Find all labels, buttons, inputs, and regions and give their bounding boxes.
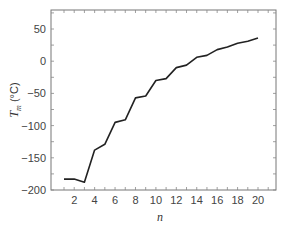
x-tick-label: 4 [92,194,98,206]
y-tick-label: −50 [27,87,46,99]
x-axis-ticks: 2468101214161820 [64,10,268,206]
y-tick-label: −200 [21,184,46,196]
x-tick-label: 16 [211,194,223,206]
x-tick-label: 6 [112,194,118,206]
x-tick-label: 8 [132,194,138,206]
y-axis-ticks: −200−150−100−50050 [21,13,276,196]
y-axis-label: Tm(°C) [7,82,23,117]
x-tick-label: 10 [150,194,162,206]
x-tick-label: 14 [191,194,203,206]
y-tick-label: −100 [21,120,46,132]
y-tick-label: 0 [40,55,46,67]
svg-text:Tm(°C): Tm(°C) [7,82,23,117]
y-tick-label: −150 [21,152,46,164]
x-tick-label: 20 [252,194,264,206]
plot-frame [51,10,276,190]
y-axis-label-unit: (°C) [8,82,20,102]
x-tick-label: 12 [170,194,182,206]
x-tick-label: 18 [231,194,243,206]
line-chart: 2468101214161820 −200−150−100−50050 n Tm… [0,0,287,230]
data-series-line [64,38,258,182]
y-axis-label-sub: m [14,105,23,111]
y-tick-label: 50 [34,23,46,35]
x-tick-label: 2 [71,194,77,206]
plot-area: 2468101214161820 −200−150−100−50050 [21,10,276,206]
x-axis-label: n [157,210,163,224]
